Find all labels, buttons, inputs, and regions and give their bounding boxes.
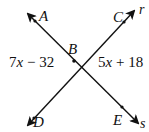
right-op: + xyxy=(112,54,128,70)
right-coef: 5 xyxy=(98,54,106,70)
point-label-c: C xyxy=(113,10,123,25)
point-label-a: A xyxy=(39,9,48,24)
ray-label-r: r xyxy=(139,3,144,17)
point-e-dot xyxy=(120,105,123,108)
point-label-d: D xyxy=(33,115,44,130)
ray-label-s: s xyxy=(140,117,145,131)
left-op: − xyxy=(23,54,39,70)
left-coef: 7 xyxy=(9,54,17,70)
angle-expression-left: 7x − 32 xyxy=(9,55,54,70)
right-const: 18 xyxy=(128,54,143,70)
angle-expression-right: 5x + 18 xyxy=(98,55,143,70)
point-label-b: B xyxy=(68,42,77,57)
point-label-e: E xyxy=(113,113,122,128)
point-a-dot xyxy=(33,19,36,22)
left-const: 32 xyxy=(39,54,54,70)
point-b-dot xyxy=(72,59,76,63)
